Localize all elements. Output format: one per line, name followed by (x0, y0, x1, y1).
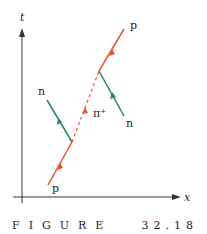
x-axis-label: x (184, 192, 190, 203)
t-axis-label: t (20, 12, 24, 23)
neutron-left-label: n (38, 86, 45, 97)
figure-caption: FIGURE 32.18 (12, 219, 198, 232)
proton-out-worldline (99, 29, 124, 71)
pion-label: π⁺ (93, 108, 106, 119)
t-axis-arrow-icon (19, 28, 25, 37)
proton-out-label: p (130, 20, 137, 31)
proton-in-label: p (52, 183, 59, 194)
x-axis-arrow-icon (172, 194, 181, 200)
caption-word: FIGURE (12, 219, 112, 232)
pion-arrow-icon (82, 107, 88, 114)
neutron-right-label: n (126, 118, 133, 129)
caption-number: 32.18 (142, 219, 199, 232)
